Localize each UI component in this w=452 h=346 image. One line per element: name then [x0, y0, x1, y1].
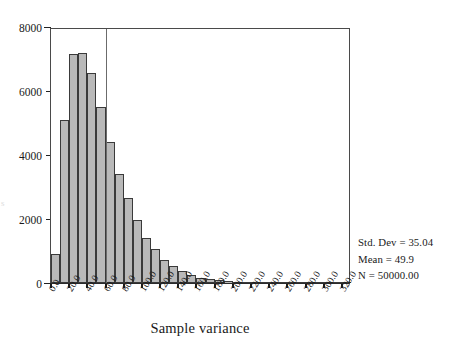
y-axis-tick-label: 6000 [0, 86, 42, 98]
histogram-bar [69, 54, 78, 283]
y-axis-tick [46, 91, 50, 92]
reference-vline [106, 29, 107, 283]
y-axis-tick-label: 2000 [0, 214, 42, 226]
stat-n: N = 50000.00 [358, 267, 433, 284]
histogram-bar [60, 120, 69, 283]
histogram-bar [106, 142, 115, 283]
clipped-margin-artifact: s [1, 198, 5, 208]
y-axis-tick [44, 27, 51, 28]
histogram-bar [78, 53, 87, 283]
stats-block: Std. Dev = 35.04 Mean = 49.9 N = 50000.0… [358, 234, 433, 284]
y-axis-tick-label: 0 [0, 278, 42, 290]
histogram-bar [133, 220, 142, 283]
histogram-bar [87, 73, 96, 283]
histogram-bar [115, 174, 124, 283]
stat-mean: Mean = 49.9 [358, 251, 433, 268]
y-axis-tick-label: 8000 [0, 22, 42, 34]
bars-layer [51, 29, 349, 283]
stat-std-dev: Std. Dev = 35.04 [358, 234, 433, 251]
y-axis-tick-label: 4000 [0, 150, 42, 162]
histogram-bar [96, 107, 105, 283]
histogram-figure: 02000400060008000 0.020.040.060.080.0100… [0, 0, 452, 346]
histogram-bar [124, 198, 133, 283]
x-axis-title: Sample variance [50, 320, 350, 337]
y-axis-tick [46, 155, 50, 156]
y-axis-tick [46, 219, 50, 220]
plot-area [50, 28, 350, 284]
